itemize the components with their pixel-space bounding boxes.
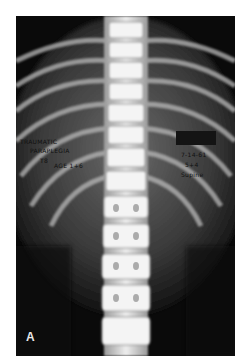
xray-image [16, 16, 235, 356]
annotation-line: TRAUMATIC [20, 138, 57, 145]
annotation-date: 7-14-61 [181, 151, 207, 158]
annotation-line: T8 [40, 157, 48, 164]
annotation-line: AGE 1+6 [54, 162, 83, 169]
annotation-position: Supine [181, 171, 203, 178]
spine-radiograph [16, 16, 235, 356]
annotation-line: PARAPLEGIA [30, 147, 70, 154]
annotation-code: 5+4 [185, 161, 199, 168]
panel-label: A [26, 330, 35, 344]
redaction-box [176, 131, 216, 145]
